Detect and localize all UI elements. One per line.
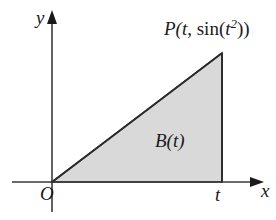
region-label-name: B [155, 130, 167, 151]
y-axis-arrowhead-icon [47, 10, 57, 24]
y-axis-label: y [36, 8, 44, 27]
x-axis-label: x [261, 181, 269, 200]
origin-label: O [40, 184, 54, 203]
point-label-prefix: P( [164, 18, 182, 39]
point-label-separator: , [187, 18, 197, 39]
region-label-close-paren: ) [178, 130, 184, 151]
point-label-close-paren: )) [237, 18, 250, 39]
x-tick-label-t: t [215, 185, 220, 204]
point-label: P(t, sin(t2)) [164, 18, 250, 38]
math-figure: P(t, sin(t2)) B(t) y x O t [0, 0, 276, 220]
region-label: B(t) [155, 131, 185, 150]
point-label-function: sin [197, 18, 219, 39]
